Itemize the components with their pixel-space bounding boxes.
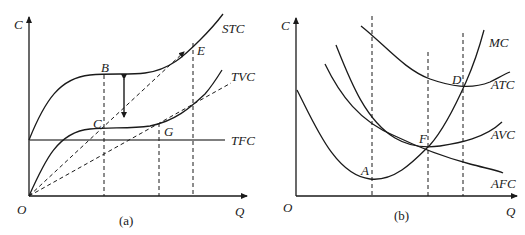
point-e-label: E bbox=[196, 43, 205, 58]
tfc-label: TFC bbox=[231, 133, 255, 148]
point-g-label: G bbox=[164, 124, 174, 139]
origin-label-b: O bbox=[283, 200, 293, 215]
afc-curve bbox=[325, 64, 503, 173]
avc-label: AVC bbox=[490, 127, 515, 142]
point-a-label: A bbox=[360, 163, 369, 178]
point-d-label: D bbox=[451, 72, 462, 87]
stc-label: STC bbox=[222, 21, 245, 36]
x-axis-label-a: Q bbox=[235, 204, 245, 219]
panel-a: C Q O STC TVC TFC B C E G (a) bbox=[14, 14, 255, 228]
y-axis-label-a: C bbox=[14, 17, 23, 32]
origin-label-a: O bbox=[17, 202, 27, 217]
caption-b: (b) bbox=[394, 208, 409, 223]
atc-label: ATC bbox=[490, 77, 515, 92]
point-b-label: B bbox=[101, 60, 109, 75]
x-axis-label-b: Q bbox=[506, 204, 516, 219]
point-f-label: F bbox=[418, 131, 428, 146]
caption-a: (a) bbox=[119, 213, 133, 228]
mc-label: MC bbox=[488, 35, 509, 50]
stc-curve bbox=[29, 14, 223, 140]
atc-curve bbox=[361, 26, 510, 86]
panel-b: C Q O MC ATC AVC AFC A D F (b) bbox=[281, 16, 517, 223]
y-axis-label-b: C bbox=[281, 18, 290, 33]
point-c-label: C bbox=[93, 116, 102, 131]
tvc-label: TVC bbox=[231, 69, 255, 84]
afc-label: AFC bbox=[490, 176, 516, 191]
